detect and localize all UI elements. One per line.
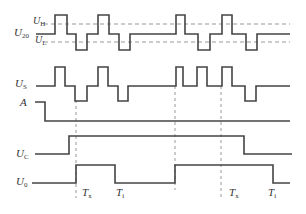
signal-waveforms: [32, 15, 292, 183]
label-u0: U0: [16, 176, 27, 189]
waveform-canvas: [0, 0, 306, 214]
label-ti-1: Ti: [116, 187, 124, 200]
time-markers: [76, 86, 221, 198]
signal-u0: [32, 165, 290, 183]
label-tx-1: Tx: [82, 187, 92, 200]
threshold-lines: [44, 24, 290, 42]
label-uc: UC: [16, 148, 29, 161]
timing-diagram: U20 UH UL US A UC U0 Tx Ti Tx Ti: [0, 0, 306, 214]
label-a: A: [20, 97, 27, 108]
label-ti-2: Ti: [268, 187, 276, 200]
label-uh: UH: [33, 16, 45, 28]
label-tx-2: Tx: [229, 187, 239, 200]
label-ul: UL: [35, 35, 47, 47]
label-us: US: [15, 78, 27, 91]
signal-uc: [35, 136, 292, 154]
label-u20: U20: [14, 27, 29, 40]
signal-us: [36, 67, 290, 101]
signal-u20: [36, 15, 290, 50]
signal-a: [35, 102, 290, 121]
